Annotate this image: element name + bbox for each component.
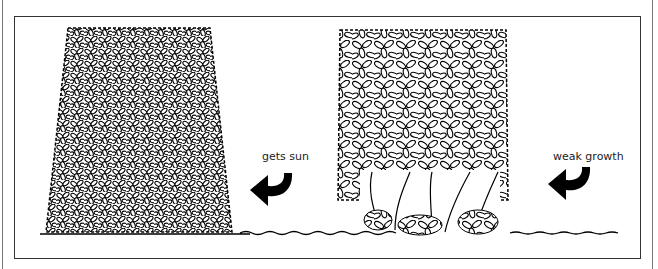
label-weak-growth: weak growth xyxy=(553,150,624,163)
tapered-hedge xyxy=(46,28,232,232)
label-gets-sun: gets sun xyxy=(262,150,309,163)
straight-hedge xyxy=(338,30,508,235)
hedge-illustration xyxy=(0,0,658,269)
curved-arrow-icon-left xyxy=(250,173,292,206)
curved-arrow-icon-right xyxy=(548,167,590,200)
